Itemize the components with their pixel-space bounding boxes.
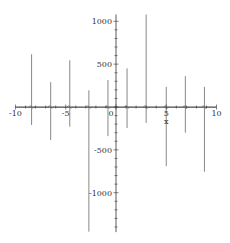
y-tick-label: 500	[97, 60, 112, 69]
y-tick-label: -500	[94, 146, 112, 155]
y-tick-label: 1000	[92, 17, 112, 26]
x-tick-label: -10	[9, 109, 22, 118]
x-tick-label: -5	[62, 109, 70, 118]
y-tick-label: -1000	[89, 189, 112, 198]
x-tick-label: 10	[211, 109, 221, 118]
x-tick-label: 0	[108, 109, 113, 118]
y-ticks: 1000500-500-1000	[89, 17, 119, 227]
x-ticks: -10-50510	[9, 105, 222, 119]
plot-area: -10-50510 1000500-500-1000 x	[0, 0, 230, 243]
x-axis-label: x	[164, 117, 169, 126]
axes: -10-50510 1000500-500-1000 x	[9, 14, 222, 232]
